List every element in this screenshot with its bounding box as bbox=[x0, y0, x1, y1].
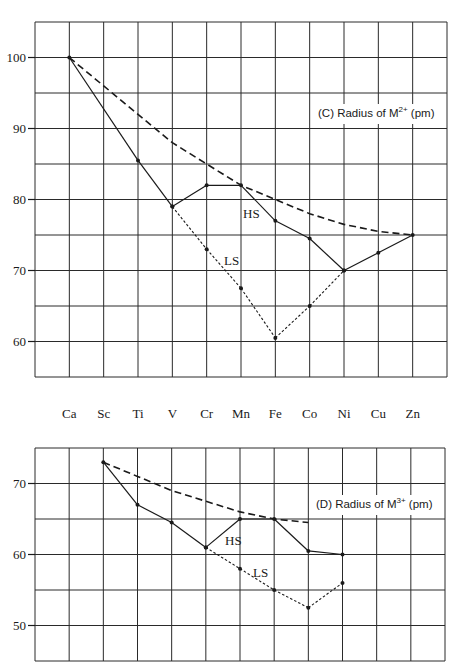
data-point-HS bbox=[341, 553, 345, 557]
annotation-ls: LS bbox=[224, 253, 239, 268]
series-LS-segment bbox=[274, 590, 308, 608]
series-HS-segment bbox=[138, 505, 172, 523]
series-LS-segment bbox=[275, 306, 309, 338]
data-point-HS bbox=[238, 517, 242, 521]
x-label-ca: Ca bbox=[62, 406, 77, 421]
x-label-zn: Zn bbox=[405, 406, 420, 421]
data-point-LS bbox=[205, 247, 209, 251]
annotation-hs: HS bbox=[243, 206, 260, 221]
data-point-LS bbox=[204, 545, 208, 549]
x-label-cr: Cr bbox=[200, 406, 214, 421]
chart-title: (C) Radius of M2+ (pm) bbox=[318, 105, 435, 119]
series-LS-segment bbox=[241, 288, 275, 338]
annotation-ls: LS bbox=[253, 565, 268, 580]
y-tick-label: 100 bbox=[7, 50, 27, 65]
x-label-fe: Fe bbox=[269, 406, 282, 421]
data-point-LS bbox=[342, 269, 346, 273]
figure: 10090807060(C) Radius of M2+ (pm)HSLS Ca… bbox=[0, 0, 463, 672]
chart-d-radius-m3: 706050(D) Radius of M3+ (pm)HSLS bbox=[13, 448, 445, 661]
x-axis-element-labels: CaScTiVCrMnFeCoNiCuZn bbox=[62, 406, 420, 421]
y-tick-label: 50 bbox=[13, 618, 26, 633]
data-point-HS bbox=[306, 549, 310, 553]
data-point-HS bbox=[273, 219, 277, 223]
data-point-LS bbox=[308, 304, 312, 308]
y-tick-label: 60 bbox=[13, 547, 26, 562]
data-point-HS bbox=[205, 183, 209, 187]
series-LS-segment bbox=[308, 583, 342, 608]
data-point-HS bbox=[136, 503, 140, 507]
data-point-LS bbox=[239, 286, 243, 290]
x-label-ti: Ti bbox=[132, 406, 143, 421]
series-HS-segment bbox=[310, 239, 344, 271]
data-point-HS bbox=[136, 158, 140, 162]
y-tick-label: 60 bbox=[13, 334, 26, 349]
series-HS-segment bbox=[172, 185, 206, 206]
x-label-cu: Cu bbox=[371, 406, 387, 421]
series-HS-segment bbox=[275, 221, 309, 239]
y-tick-label: 70 bbox=[13, 476, 26, 491]
x-label-ni: Ni bbox=[338, 406, 351, 421]
data-point-LS bbox=[341, 581, 345, 585]
data-point-HS bbox=[272, 517, 276, 521]
data-point-HS bbox=[67, 56, 71, 60]
series-HS-segment bbox=[274, 519, 308, 551]
chart-title: (D) Radius of M3+ (pm) bbox=[316, 496, 433, 510]
x-label-v: V bbox=[168, 406, 178, 421]
chart-c-radius-m2: 10090807060(C) Radius of M2+ (pm)HSLS bbox=[7, 22, 448, 377]
data-point-HS bbox=[239, 183, 243, 187]
series-HS-segment bbox=[308, 551, 342, 555]
data-point-LS bbox=[306, 606, 310, 610]
data-point-LS bbox=[170, 205, 174, 209]
series-LS-segment bbox=[172, 207, 206, 250]
data-point-LS bbox=[272, 588, 276, 592]
y-tick-label: 90 bbox=[13, 121, 26, 136]
data-point-HS bbox=[308, 237, 312, 241]
data-point-LS bbox=[238, 567, 242, 571]
data-point-LS bbox=[273, 336, 277, 340]
series-HS-segment bbox=[172, 523, 206, 548]
series-HS-segment bbox=[378, 235, 412, 253]
x-label-co: Co bbox=[302, 406, 317, 421]
series-LS-segment bbox=[310, 271, 344, 307]
series-HS-segment bbox=[344, 253, 378, 271]
series-LS-segment bbox=[206, 547, 240, 568]
data-point-HS bbox=[411, 233, 415, 237]
y-tick-label: 80 bbox=[13, 192, 26, 207]
x-label-mn: Mn bbox=[232, 406, 251, 421]
data-point-HS bbox=[376, 251, 380, 255]
x-label-sc: Sc bbox=[97, 406, 110, 421]
y-tick-label: 70 bbox=[13, 263, 26, 278]
annotation-hs: HS bbox=[225, 533, 242, 548]
data-point-HS bbox=[101, 460, 105, 464]
data-point-HS bbox=[170, 521, 174, 525]
